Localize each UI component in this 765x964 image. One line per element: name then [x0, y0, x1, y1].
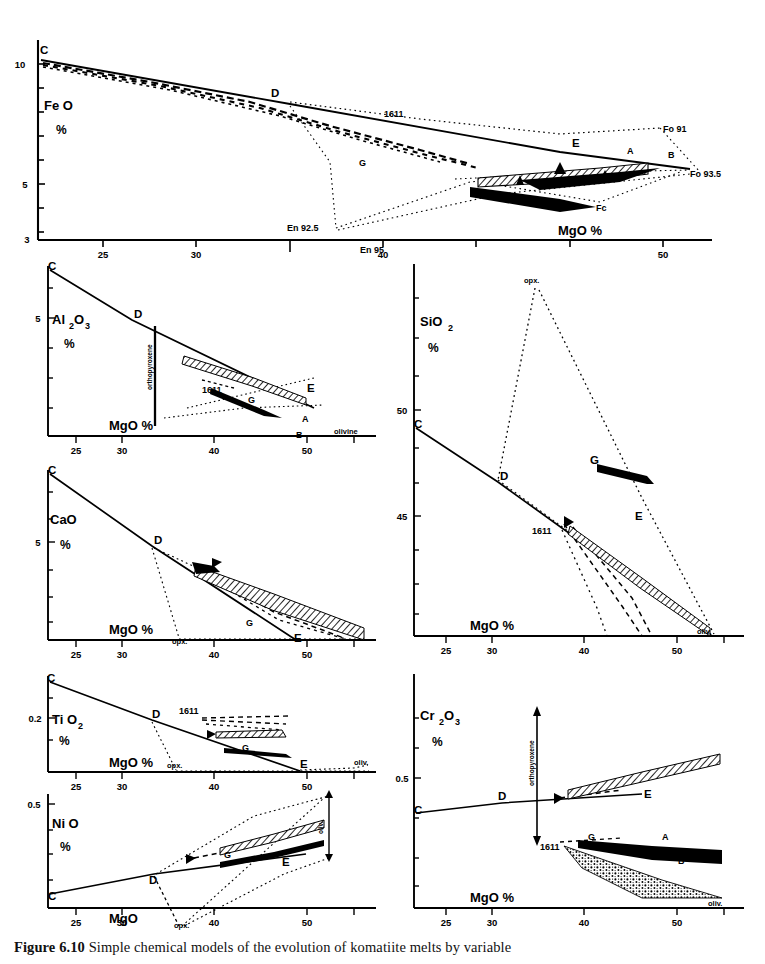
tio2-xaxis-title: MgO % [109, 755, 153, 770]
svg-text:SiO: SiO [420, 314, 442, 329]
cr2o3-xtick-40: 40 [579, 917, 590, 928]
label-E: E [644, 788, 652, 800]
sio2-axis-title: SiO 2 [420, 314, 453, 333]
nio-xtick-25: 25 [71, 917, 82, 928]
feo-ytick-10: 10 [15, 59, 26, 70]
label-C: C [48, 890, 56, 902]
sio2-xtick-30: 30 [487, 645, 498, 656]
feo-ytick-3: 3 [24, 234, 29, 245]
sio2-xtick-25: 25 [441, 645, 452, 656]
cao-axis-title: CaO [50, 512, 77, 527]
label-fo935: Fo 93.5 [690, 169, 721, 179]
label-opx: opx. [167, 761, 182, 770]
nio-ytick-05: 0.5 [27, 799, 41, 810]
sio2-markers [564, 516, 574, 528]
label-B: B [296, 430, 303, 440]
svg-text:3: 3 [455, 717, 460, 727]
label-D: D [134, 308, 142, 320]
label-E: E [300, 758, 308, 770]
svg-text:2: 2 [78, 721, 83, 731]
svg-text:3: 3 [85, 321, 90, 331]
label-G: G [246, 618, 253, 628]
label-D: D [271, 87, 279, 99]
label-1611: 1611 [540, 842, 560, 852]
label-fo91: Fo 91 [663, 124, 687, 134]
al2o3-axes: 5 25 30 40 50 Al 2 O 3 % MgO % [35, 266, 376, 456]
cao-markers [212, 558, 222, 568]
al2o3-xaxis-title: MgO % [109, 418, 153, 433]
svg-text:Al: Al [52, 312, 65, 327]
label-C: C [47, 672, 55, 684]
label-oliv: oliv. [317, 821, 324, 834]
sio2-bands [568, 464, 710, 636]
label-A: A [302, 414, 309, 424]
label-E: E [635, 510, 643, 522]
label-Fc: Fc [596, 203, 607, 213]
tio2-curves [50, 682, 369, 771]
label-B: B [668, 150, 675, 160]
nio-axis-percent: % [60, 840, 71, 854]
label-C: C [48, 260, 56, 272]
cao-ytick-5: 5 [35, 537, 41, 548]
label-opx: opx. [524, 276, 539, 285]
panel-sio2: 50 45 25 30 40 50 SiO 2 % MgO % opx. C D… [392, 258, 765, 658]
al2o3-axis-title: Al 2 O 3 [52, 312, 90, 331]
label-E: E [307, 382, 315, 394]
al2o3-xtick-25: 25 [71, 445, 82, 456]
label-oliv: oliv. [708, 899, 722, 908]
label-C: C [414, 418, 422, 430]
tio2-labels: C D 1611 G E opx. oliv. [47, 672, 368, 770]
caption-label: Figure 6.10 [14, 939, 85, 955]
sio2-ytick-50: 50 [397, 405, 408, 416]
cao-xtick-30: 30 [117, 649, 128, 660]
label-A: A [662, 832, 669, 842]
label-E: E [282, 856, 290, 868]
label-en925: En 92.5 [287, 223, 319, 233]
label-D: D [154, 534, 162, 546]
nio-xaxis-title: MgO [109, 911, 138, 926]
al2o3-xtick-30: 30 [117, 445, 128, 456]
al2o3-xtick-50: 50 [302, 445, 313, 456]
label-1611: 1611 [202, 385, 222, 395]
label-D: D [500, 470, 508, 482]
label-D: D [152, 708, 160, 720]
cao-xtick-50: 50 [302, 649, 313, 660]
cr2o3-xtick-30: 30 [487, 917, 498, 928]
label-orthopyroxene: orthopyroxene [146, 344, 154, 390]
al2o3-axis-percent: % [64, 337, 75, 351]
label-1611: 1611 [532, 526, 552, 536]
label-opx: opx. [174, 921, 189, 930]
nio-xtick-40: 40 [209, 917, 220, 928]
panel-nio: 0.5 25 30 40 50 Ni O % MgO C D G E opx. … [24, 786, 384, 931]
panel-tio2: 0.2 25 30 40 50 Ti O 2 % MgO % C D 1611 … [24, 668, 384, 793]
panel-al2o3: 5 25 30 40 50 Al 2 O 3 % MgO % C D E A B… [24, 258, 384, 458]
cr2o3-ytick-05: 0.5 [395, 773, 409, 784]
label-G: G [359, 158, 366, 168]
panel-cao: 5 25 30 40 50 CaO % MgO % C D G E opx. [24, 462, 384, 662]
tio2-axis-percent: % [59, 734, 70, 748]
sio2-xtick-50: 50 [672, 645, 683, 656]
al2o3-curves [50, 270, 324, 426]
cr2o3-axis-percent: % [432, 735, 443, 749]
feo-ytick-5: 5 [22, 179, 28, 190]
nio-xtick-50: 50 [302, 917, 313, 928]
al2o3-ytick-5: 5 [35, 313, 41, 324]
cr2o3-xtick-25: 25 [441, 917, 452, 928]
tio2-axis-title: Ti O 2 [52, 712, 83, 731]
label-G: G [590, 454, 599, 466]
sio2-ytick-45: 45 [397, 511, 408, 522]
label-G: G [588, 832, 595, 842]
sio2-curves [416, 288, 714, 636]
tio2-bands [216, 730, 292, 758]
cao-xtick-40: 40 [209, 649, 220, 660]
al2o3-bands [182, 356, 306, 418]
sio2-xtick-40: 40 [579, 645, 590, 656]
figure-6-10: 10 5 3 25 30 40 50 Fe O % MgO % C [0, 0, 765, 964]
label-B: B [678, 856, 685, 866]
feo-axis-title: Fe O [44, 98, 73, 113]
sio2-axes: 50 45 25 30 40 50 SiO 2 % MgO % [397, 264, 744, 656]
label-opx: opx. [172, 637, 187, 646]
feo-axis-percent: % [56, 123, 67, 137]
label-C: C [40, 44, 48, 56]
label-G: G [248, 395, 255, 405]
